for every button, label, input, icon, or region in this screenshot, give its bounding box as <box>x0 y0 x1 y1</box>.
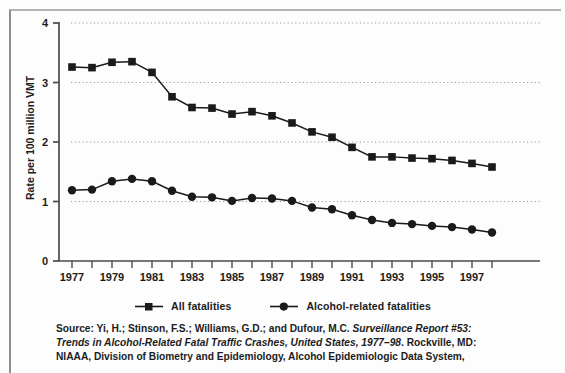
legend-entry-all-fatalities: All fatalities <box>134 300 231 312</box>
data-point-marker <box>268 194 276 202</box>
line-chart: Rate per 100 million VMT 01234 197719791… <box>0 0 565 285</box>
data-point-marker <box>408 220 416 228</box>
x-tick-label-1983: 1983 <box>180 271 204 283</box>
data-point-marker <box>328 205 336 213</box>
source-citation: Source: Yi, H.; Stinson, F.S.; Williams,… <box>56 322 546 365</box>
data-point-marker <box>88 64 96 72</box>
data-point-marker <box>468 160 476 168</box>
data-point-marker <box>68 63 76 71</box>
source-line-1-plain: Source: Yi, H.; Stinson, F.S.; Williams,… <box>56 323 353 334</box>
data-point-marker <box>448 223 456 231</box>
data-point-marker <box>468 225 476 233</box>
x-tick-label-1997: 1997 <box>460 271 484 283</box>
data-point-marker <box>328 133 336 141</box>
data-point-marker <box>228 110 236 118</box>
x-tick-label-1979: 1979 <box>100 271 124 283</box>
data-point-marker <box>488 163 496 171</box>
y-tick-label-3: 3 <box>42 77 48 89</box>
data-point-marker <box>348 144 356 152</box>
x-tick-label-1991: 1991 <box>340 271 364 283</box>
data-point-marker <box>308 203 316 211</box>
chart-legend: All fatalities Alcohol-related fatalitie… <box>0 295 565 317</box>
data-point-marker <box>348 211 356 219</box>
legend-label-all-fatalities: All fatalities <box>171 300 231 312</box>
source-line-2-plain: . Rockville, MD: <box>401 337 476 348</box>
data-point-marker <box>188 104 196 112</box>
data-point-marker <box>128 58 136 66</box>
data-point-marker <box>388 219 396 227</box>
source-line-3-plain: NIAAA, Division of Biometry and Epidemio… <box>56 351 465 362</box>
data-point-marker <box>148 177 156 185</box>
x-tick-label-1981: 1981 <box>140 271 164 283</box>
source-line-3: NIAAA, Division of Biometry and Epidemio… <box>56 350 546 364</box>
legend-entry-alcohol-related-fatalities: Alcohol-related fatalities <box>269 300 431 312</box>
x-tick-label-1987: 1987 <box>260 271 284 283</box>
data-series-layer <box>68 58 496 237</box>
y-tick-label-1: 1 <box>42 196 48 208</box>
data-point-marker <box>248 108 256 116</box>
source-line-1-italic: Surveillance Report #53: <box>353 323 472 334</box>
data-point-marker <box>148 69 156 77</box>
data-point-marker <box>208 104 216 112</box>
data-point-marker <box>488 228 496 236</box>
figure-container: Rate per 100 million VMT 01234 197719791… <box>0 0 565 373</box>
y-axis-label-text: Rate per 100 million VMT <box>24 75 36 200</box>
y-tick-label-4: 4 <box>42 17 49 29</box>
y-axis: 01234 <box>42 17 59 267</box>
source-line-2: Trends in Alcohol-Related Fatal Traffic … <box>56 336 546 350</box>
x-tick-label-1993: 1993 <box>380 271 404 283</box>
data-point-marker <box>288 197 296 205</box>
data-point-marker <box>308 128 316 136</box>
series-line <box>72 62 492 167</box>
plot-area: Rate per 100 million VMT 01234 197719791… <box>0 0 565 285</box>
data-point-marker <box>228 197 236 205</box>
legend-label-alcohol-related-fatalities: Alcohol-related fatalities <box>306 300 431 312</box>
data-point-marker <box>128 175 136 183</box>
x-tick-label-1989: 1989 <box>300 271 324 283</box>
x-axis <box>59 261 540 268</box>
data-point-marker <box>208 193 216 201</box>
x-axis-tick-labels: 1977197919811983198519871989199119931995… <box>60 271 484 283</box>
data-point-marker <box>368 153 376 161</box>
x-tick-label-1985: 1985 <box>220 271 244 283</box>
gridlines <box>71 23 540 202</box>
data-point-marker <box>188 193 196 201</box>
x-tick-label-1977: 1977 <box>60 271 84 283</box>
data-point-marker <box>368 216 376 224</box>
data-point-marker <box>288 119 296 127</box>
data-point-marker <box>168 93 176 101</box>
legend-marker-square-icon <box>134 301 164 312</box>
x-tick-label-1995: 1995 <box>420 271 444 283</box>
y-axis-label: Rate per 100 million VMT <box>24 75 36 200</box>
series-alcohol-related-fatalities <box>68 175 496 237</box>
y-tick-label-0: 0 <box>42 255 48 267</box>
data-point-marker <box>88 185 96 193</box>
data-point-marker <box>248 194 256 202</box>
data-point-marker <box>268 112 276 120</box>
series-all-fatalities <box>68 58 496 171</box>
data-point-marker <box>428 155 436 163</box>
data-point-marker <box>108 177 116 185</box>
data-point-marker <box>408 154 416 162</box>
data-point-marker <box>448 157 456 165</box>
data-point-marker <box>168 187 176 195</box>
legend-marker-circle-icon <box>269 301 299 312</box>
source-line-2-italic: Trends in Alcohol-Related Fatal Traffic … <box>56 337 401 348</box>
data-point-marker <box>388 153 396 161</box>
source-line-1: Source: Yi, H.; Stinson, F.S.; Williams,… <box>56 322 546 336</box>
data-point-marker <box>428 222 436 230</box>
y-tick-label-2: 2 <box>42 136 48 148</box>
data-point-marker <box>108 58 116 66</box>
data-point-marker <box>68 186 76 194</box>
